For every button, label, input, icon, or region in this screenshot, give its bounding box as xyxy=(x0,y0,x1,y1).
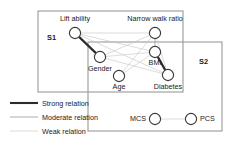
node-bmi[interactable] xyxy=(149,46,160,57)
node-label-lift-ability: Lift ability xyxy=(60,14,90,23)
node-label-pcs: PCS xyxy=(200,114,215,123)
node-label-bmi: BMI xyxy=(149,58,162,67)
group-label-s1: S1 xyxy=(47,33,56,42)
node-label-mcs: MCS xyxy=(130,114,146,123)
edge-narrow_walk_ratio-gender xyxy=(105,35,150,55)
group-label-s2: S2 xyxy=(199,57,208,66)
node-lift-ability[interactable] xyxy=(69,27,80,38)
node-label-age: Age xyxy=(113,82,126,91)
group-label-layer: S1S2 xyxy=(47,33,208,66)
legend-label-weak: Weak relation xyxy=(42,127,86,136)
node-gender[interactable] xyxy=(94,51,105,62)
edge-age-bmi xyxy=(124,55,151,73)
node-narrow-walk-ratio[interactable] xyxy=(149,27,160,38)
node-label-narrow-walk-ratio: Narrow walk ratio xyxy=(127,14,183,23)
node-label-gender: Gender xyxy=(88,64,113,73)
figure-canvas: Lift abilityNarrow walk ratioGenderBMIAg… xyxy=(0,0,232,141)
legend-label-strong: Strong relation xyxy=(42,99,89,108)
legend: Strong relationModerate relationWeak rel… xyxy=(10,99,98,136)
network-diagram: Lift abilityNarrow walk ratioGenderBMIAg… xyxy=(0,0,232,141)
node-age[interactable] xyxy=(113,70,124,81)
node-mcs[interactable] xyxy=(149,113,160,124)
node-layer: Lift abilityNarrow walk ratioGenderBMIAg… xyxy=(60,14,215,125)
legend-label-moderate: Moderate relation xyxy=(42,113,98,122)
group-box-s1 xyxy=(38,11,183,92)
edge-gender-bmi xyxy=(106,53,150,57)
node-diabetes[interactable] xyxy=(162,69,173,80)
node-pcs[interactable] xyxy=(185,113,196,124)
node-label-diabetes: Diabetes xyxy=(154,82,183,91)
